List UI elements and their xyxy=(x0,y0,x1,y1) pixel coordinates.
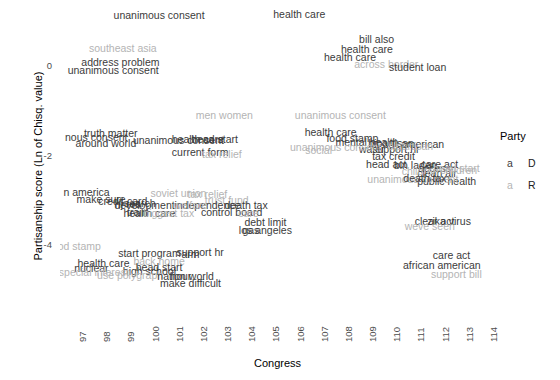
legend-entry-label: D xyxy=(528,157,536,169)
x-tick-label: 105 xyxy=(270,326,281,342)
x-axis-title: Congress xyxy=(60,357,495,369)
legend: Party aDaR xyxy=(500,130,560,196)
x-tick-label: 107 xyxy=(319,326,330,342)
legend-entries: aDaR xyxy=(500,152,560,196)
legend-key-glyph: a xyxy=(500,157,520,169)
x-tick-label: 109 xyxy=(367,326,378,342)
x-tick-label: 103 xyxy=(222,326,233,342)
x-tick-label: 113 xyxy=(464,327,475,342)
x-tick-label: 112 xyxy=(440,327,451,342)
legend-title: Party xyxy=(500,130,560,142)
legend-entry[interactable]: aD xyxy=(500,152,560,174)
x-tick-label: 106 xyxy=(295,326,306,342)
x-axis-tick-labels: 9798991001011021031041051061071081091101… xyxy=(0,0,560,380)
chart-root: Partisanship score (Ln of Chisq. value) … xyxy=(0,0,560,380)
x-tick-label: 114 xyxy=(488,327,499,342)
x-tick-label: 98 xyxy=(101,331,112,342)
x-tick-label: 102 xyxy=(198,326,209,342)
x-tick-label: 97 xyxy=(77,331,88,342)
x-tick-label: 104 xyxy=(246,326,257,342)
x-tick-label: 100 xyxy=(150,326,161,342)
x-tick-label: 111 xyxy=(415,328,426,342)
x-tick-label: 108 xyxy=(343,326,354,342)
x-tick-label: 99 xyxy=(125,331,136,342)
legend-entry-label: R xyxy=(528,179,536,191)
x-tick-label: 110 xyxy=(391,327,402,342)
legend-entry[interactable]: aR xyxy=(500,174,560,196)
x-tick-label: 101 xyxy=(174,326,185,342)
legend-key-glyph: a xyxy=(500,179,520,191)
